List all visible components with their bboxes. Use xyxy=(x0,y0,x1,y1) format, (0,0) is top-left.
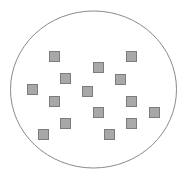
square-element xyxy=(83,87,93,97)
square-element xyxy=(39,130,49,140)
square-element xyxy=(94,63,104,73)
diagram-svg xyxy=(0,0,184,180)
square-element xyxy=(50,97,60,107)
square-element xyxy=(94,108,104,118)
square-element xyxy=(61,74,71,84)
square-element xyxy=(61,119,71,129)
square-element xyxy=(127,97,137,107)
diagram-canvas xyxy=(0,0,184,180)
square-element xyxy=(127,119,137,129)
squares-group xyxy=(28,52,160,140)
square-element xyxy=(127,52,137,62)
square-element xyxy=(50,52,60,62)
square-element xyxy=(116,75,126,85)
square-element xyxy=(150,108,160,118)
square-element xyxy=(28,85,38,95)
square-element xyxy=(105,130,115,140)
